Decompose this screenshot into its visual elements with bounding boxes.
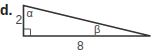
angle-beta-label: β — [94, 23, 100, 35]
right-angle-marker — [24, 29, 31, 36]
right-triangle-diagram: d. 2 α β 8 — [0, 0, 151, 56]
angle-alpha-label: α — [27, 7, 34, 19]
vertical-side-label: 2 — [16, 13, 23, 27]
triangle-outline — [24, 6, 151, 37]
horizontal-side-label: 8 — [77, 39, 84, 53]
part-label: d. — [0, 2, 12, 18]
